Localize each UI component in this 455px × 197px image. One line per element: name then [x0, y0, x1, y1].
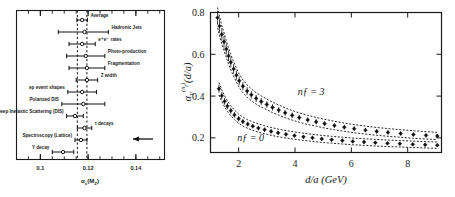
right-y-tick-label: 0.6 — [192, 49, 205, 60]
right-x-tick-label: 2 — [236, 158, 241, 169]
right-y-tick-label: 0.2 — [192, 132, 205, 143]
figure-root: AverageHadronic Jetse⁺e⁻ ratesPhoto-prod… — [0, 0, 455, 197]
right-x-tick-label: 8 — [405, 158, 410, 169]
right-x-tick-label: 4 — [293, 158, 298, 169]
right-y-axis-title: αV(nf)(d/a) — [179, 62, 195, 102]
series-n-f-3 — [216, 8, 440, 140]
right-panel-alpha-V: nƒ = 3nƒ = 0 2468 0.20.40.60.8 d/a (GeV)… — [0, 0, 455, 197]
right-data-series — [216, 8, 440, 149]
right-x-tick-label: 6 — [349, 158, 354, 169]
fit-envelope-curve — [218, 28, 438, 140]
right-y-tick-label: 0.8 — [192, 7, 205, 18]
annotation-label: nƒ = 0 — [237, 132, 264, 143]
annotation-label: nƒ = 3 — [298, 86, 325, 97]
right-y-tick-labels: 0.20.40.60.8 — [192, 7, 205, 143]
fit-envelope-curve — [218, 8, 438, 133]
right-x-tick-labels: 2468 — [236, 158, 410, 169]
right-x-axis-title: d/a (GeV) — [305, 174, 347, 186]
svg-text:αV(nf)(d/a): αV(nf)(d/a) — [179, 62, 195, 102]
